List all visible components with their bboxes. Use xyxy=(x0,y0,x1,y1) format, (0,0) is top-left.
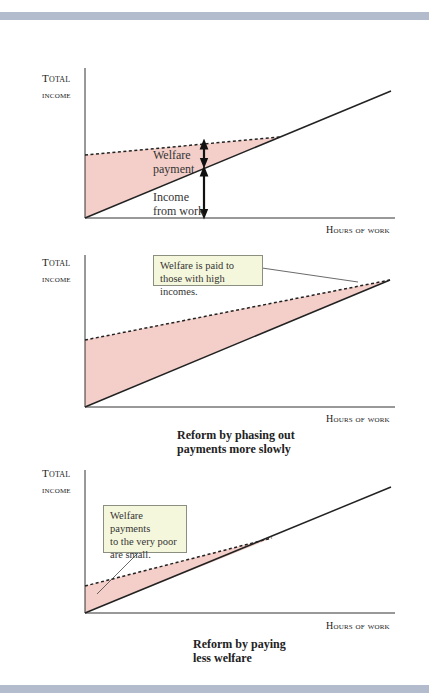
y-label-line1: Total xyxy=(42,256,70,268)
y-label-line2: income xyxy=(42,482,71,498)
chart-2-y-axis-label: Total income xyxy=(42,254,71,287)
y-label-line1: Total xyxy=(42,72,70,84)
y-label-line2: income xyxy=(42,271,71,287)
chart-2-callout-box: Welfare is paid to those with high incom… xyxy=(153,255,263,286)
diagram-canvas xyxy=(0,0,429,693)
chart-3-callout-box: Welfare payments to the very poor are sm… xyxy=(103,505,187,553)
chart-3-caption: Reform by paying less welfare xyxy=(193,637,286,665)
y-label-line1: Total xyxy=(42,467,70,479)
welfare-payment-label: Welfare payment xyxy=(153,148,194,176)
chart-3-x-axis-label: Hours of work xyxy=(326,620,390,631)
chart-2-x-axis-label: Hours of work xyxy=(326,413,390,424)
y-label-line2: income xyxy=(42,87,71,103)
callout-leader-line xyxy=(262,268,358,282)
chart-3-y-axis-label: Total income xyxy=(42,465,71,498)
chart-1-y-axis-label: Total income xyxy=(42,70,71,103)
chart-1-x-axis-label: Hours of work xyxy=(326,224,390,235)
chart-1 xyxy=(85,68,395,218)
income-from-work-label: Income from work xyxy=(153,190,204,218)
chart-2-caption: Reform by phasing out payments more slow… xyxy=(177,428,295,456)
